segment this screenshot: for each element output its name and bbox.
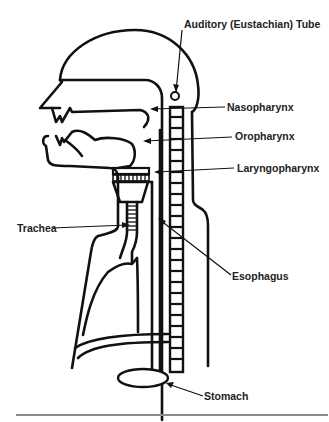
esophagus-tube [149, 130, 160, 372]
bottom-divider [16, 414, 328, 416]
label-nasopharynx: Nasopharynx [227, 101, 294, 113]
pharynx-diagram: Auditory (Eustachian) Tube Nasopharynx O… [0, 0, 329, 422]
label-auditory-tube: Auditory (Eustachian) Tube [184, 18, 320, 30]
auditory-tube-opening [171, 92, 179, 100]
upper-jaw [52, 108, 148, 127]
label-stomach: Stomach [204, 390, 248, 402]
stomach-shape [118, 369, 168, 387]
trachea [120, 202, 137, 262]
label-trachea: Trachea [17, 222, 57, 234]
label-esophagus: Esophagus [232, 270, 289, 282]
label-laryngopharynx: Laryngopharynx [237, 162, 319, 174]
diaphragm [75, 334, 168, 358]
neck-back-outline [192, 112, 208, 366]
label-oropharynx: Oropharynx [235, 130, 295, 142]
lung-outline [83, 258, 138, 335]
lower-jaw-tongue [43, 131, 135, 178]
vertebral-column [170, 107, 183, 372]
